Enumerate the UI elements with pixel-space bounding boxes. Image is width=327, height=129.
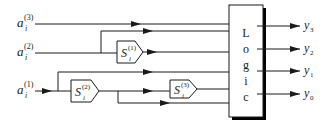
svg-text:i: i <box>25 53 27 62</box>
svg-text:3: 3 <box>310 26 314 34</box>
arrow-a1 <box>42 88 52 94</box>
s1-block: S i (1) <box>117 41 143 63</box>
output-label-y2: y 2 <box>303 41 314 57</box>
svg-text:2: 2 <box>310 49 314 57</box>
output-label-y1: y 1 <box>303 63 314 79</box>
arrow-a3 <box>131 21 141 27</box>
input-label-a2: a i (2) <box>17 42 34 62</box>
svg-text:(2): (2) <box>82 83 91 91</box>
svg-text:y: y <box>303 86 310 100</box>
svg-text:0: 0 <box>310 94 314 102</box>
svg-text:a: a <box>17 44 24 59</box>
arrow-a1-branch <box>143 69 153 75</box>
svg-text:o: o <box>243 42 249 56</box>
s2-block: S i (2) <box>71 80 99 102</box>
svg-text:(1): (1) <box>24 80 34 89</box>
input-label-a1: a i (1) <box>17 80 34 100</box>
arrow-s2-branch <box>160 100 170 106</box>
arrow-y1 <box>290 68 300 74</box>
svg-text:L: L <box>242 26 249 40</box>
s3-block: S i (3) <box>170 80 197 100</box>
svg-text:(2): (2) <box>24 42 34 51</box>
svg-text:y: y <box>303 18 310 32</box>
svg-text:c: c <box>243 90 248 104</box>
svg-text:y: y <box>303 63 310 77</box>
arrow-y0 <box>290 91 300 97</box>
input-label-a3: a i (3) <box>17 13 34 33</box>
logic-block: L o g i c <box>229 5 266 120</box>
output-label-y0: y 0 <box>303 86 314 102</box>
svg-text:S: S <box>75 85 81 99</box>
svg-text:i: i <box>25 24 27 33</box>
svg-text:a: a <box>17 82 24 97</box>
svg-text:g: g <box>243 58 249 72</box>
svg-text:(3): (3) <box>24 13 34 22</box>
encoder-logic-diagram: a i (3) a i (2) a i (1) S i (1) S i (2) <box>0 0 327 129</box>
svg-text:S: S <box>174 83 180 97</box>
svg-text:i: i <box>83 94 85 102</box>
svg-text:(1): (1) <box>128 44 137 52</box>
arrow-a2-branch <box>143 28 153 34</box>
svg-text:S: S <box>121 46 127 60</box>
arrow-s2-out <box>143 88 153 94</box>
svg-text:a: a <box>17 15 24 30</box>
output-label-y3: y 3 <box>303 18 314 34</box>
svg-text:i: i <box>182 92 184 100</box>
svg-text:1: 1 <box>310 71 314 79</box>
svg-text:i: i <box>129 55 131 63</box>
arrow-s1-out <box>147 49 157 55</box>
svg-text:(3): (3) <box>181 81 190 89</box>
arrow-y3 <box>290 23 300 29</box>
svg-text:i: i <box>25 91 27 100</box>
svg-text:y: y <box>303 41 310 55</box>
arrow-y2 <box>290 46 300 52</box>
